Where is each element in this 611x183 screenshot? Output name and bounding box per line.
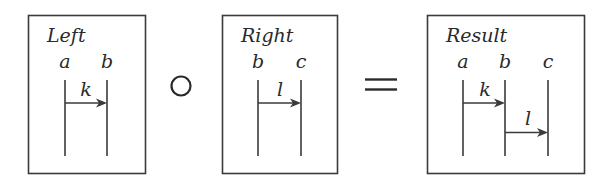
result-lifeline-label-a: a [457, 50, 468, 72]
left-message-label-k: k [80, 78, 92, 100]
right-message-label-l: l [277, 78, 283, 100]
left-box-title: Left [46, 24, 86, 46]
equals-operator-icon [365, 80, 397, 90]
result-lifeline-label-b: b [499, 50, 511, 72]
result-message-label-k: k [479, 78, 491, 100]
right-diagram-box: Right b c l [223, 16, 338, 174]
left-lifeline-label-b: b [101, 50, 113, 72]
result-lifeline-label-c: c [543, 50, 554, 72]
right-box-title: Right [240, 24, 294, 46]
result-box-title: Result [445, 24, 508, 46]
right-lifeline-label-b: b [252, 50, 264, 72]
left-diagram-box: Left a b k [29, 16, 146, 174]
right-lifeline-label-c: c [296, 50, 307, 72]
result-diagram-box: Result a b c k l [428, 16, 585, 174]
left-lifeline-label-a: a [59, 50, 70, 72]
compose-operator-icon [172, 77, 191, 96]
diagram-canvas: Left a b k Right b c l Result a [0, 0, 611, 183]
result-message-label-l: l [525, 107, 531, 129]
